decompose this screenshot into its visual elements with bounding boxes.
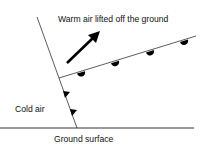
warm-front-semicircles (77, 40, 188, 77)
occluded-front-diagram: Warm air lifted off the ground Cold air … (0, 0, 206, 151)
cold-front-triangle-icon (70, 109, 77, 116)
ground-surface-label: Ground surface (54, 134, 113, 144)
warm-front-line (59, 36, 196, 78)
warm-air-label: Warm air lifted off the ground (58, 14, 169, 24)
upward-arrow-icon (67, 31, 100, 63)
cold-front-triangle-icon (63, 91, 70, 98)
cold-air-label: Cold air (15, 104, 45, 114)
